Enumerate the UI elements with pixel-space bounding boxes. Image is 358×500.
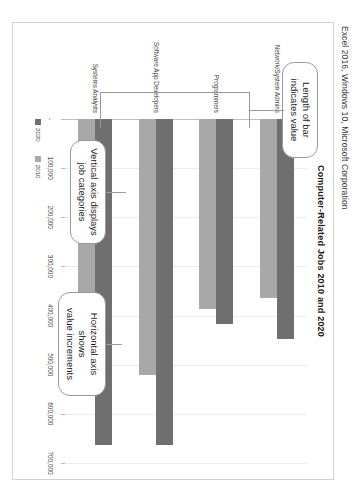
callout-vaxis-line1: Vertical axis displays [88,148,100,236]
axis-tick-mark [61,463,65,464]
legend-item-2010[interactable]: 2010 [35,156,42,179]
callout-bar-length: Length of bar indicates value [282,62,318,158]
callout-vaxis-line2: job categories [76,148,88,236]
axis-tick-label: 300,000 [47,255,54,278]
axis-tick-label: 100,000 [47,157,54,180]
legend-label: 2010 [35,165,42,179]
chart-legend[interactable]: 20202010 [35,119,42,179]
bar-2010[interactable] [139,119,156,375]
callout-horizontal-axis: Horizontal axis shows value increments [58,292,106,396]
screenshot-stage: Excel 2016, Windows 10, Microsoft Corpor… [0,0,358,500]
bar-group[interactable]: Programmers [186,119,247,463]
bar-2020[interactable] [216,119,233,324]
callout-bar-line2: indicates value [288,70,300,150]
category-label: Systems Analysts [92,64,99,113]
callout-bar-bracket [100,92,250,128]
bar-group[interactable]: Software App Developers [126,119,187,463]
axis-tick-label: 200,000 [47,206,54,229]
bar-group[interactable]: Network/System Admins [247,119,308,463]
axis-tick-label: 400,000 [47,304,54,327]
callout-bar-line1: Length of bar [300,70,312,150]
axis-tick-label: 500,000 [47,353,54,376]
bar-2010[interactable] [199,119,216,309]
legend-label: 2020 [35,128,42,142]
callout-haxis-line1: Horizontal axis shows [76,300,100,388]
axis-tick-label: 700,000 [47,451,54,474]
callout-horizontal-axis-leader-line [106,344,122,345]
axis-tick-label: - [47,118,54,120]
source-caption: Excel 2016, Windows 10, Microsoft Corpor… [340,26,350,210]
axis-tick-label: 600,000 [47,402,54,425]
gridline [65,463,307,464]
category-label: Network/System Admins [273,45,280,113]
callout-haxis-line2: value increments [64,300,76,388]
bar-2020[interactable] [156,119,173,445]
callout-vertical-axis: Vertical axis displays job categories [70,140,106,244]
callout-vertical-axis-leader-line [106,192,126,193]
legend-swatch [36,156,42,162]
bar-2010[interactable] [260,119,277,298]
callout-bar-leader-line [250,110,284,111]
legend-item-2020[interactable]: 2020 [35,119,42,142]
legend-swatch [36,119,42,125]
